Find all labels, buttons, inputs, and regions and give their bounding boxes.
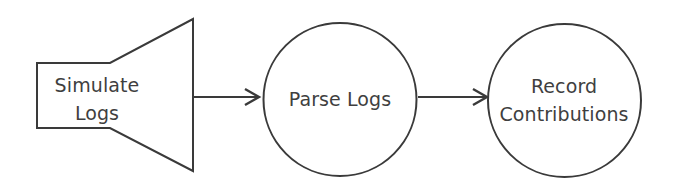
node-simulate-logs-label-line2: Logs	[75, 102, 119, 124]
node-record-contributions-label-line1: Record	[531, 75, 597, 97]
circle-shape	[488, 24, 641, 177]
node-parse-logs[interactable]: Parse Logs	[264, 23, 417, 176]
connector-simulate-to-parse[interactable]	[194, 89, 259, 105]
node-record-contributions-label-line2: Contributions	[499, 103, 628, 125]
connector-parse-to-record[interactable]	[418, 89, 487, 105]
node-record-contributions[interactable]: Record Contributions	[488, 24, 641, 177]
diagram-canvas: Simulate Logs Parse Logs Record Contribu…	[0, 0, 677, 185]
node-parse-logs-label-line1: Parse Logs	[289, 88, 392, 110]
flow-diagram: Simulate Logs Parse Logs Record Contribu…	[0, 0, 677, 185]
node-simulate-logs[interactable]: Simulate Logs	[37, 19, 193, 171]
node-simulate-logs-label-line1: Simulate	[55, 74, 140, 96]
